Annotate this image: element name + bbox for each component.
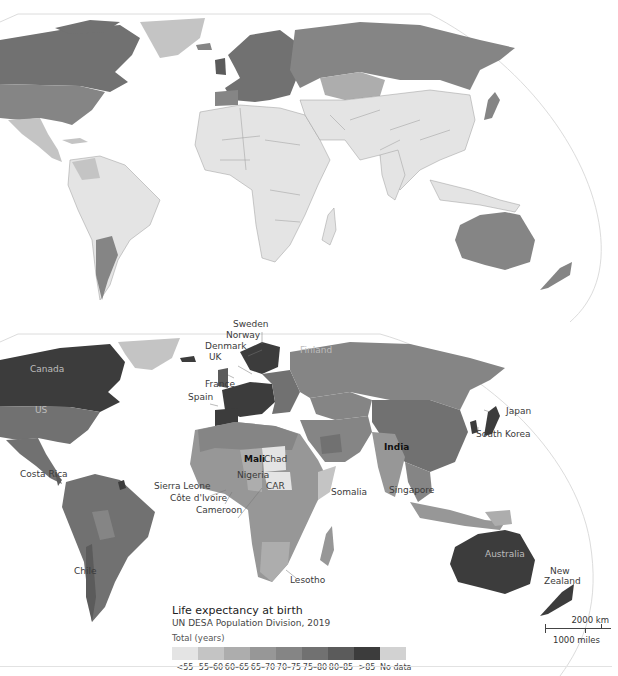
label-mali: Mali <box>244 455 265 464</box>
legend-source: UN DESA Population Division, 2019 <box>172 617 432 629</box>
legend-label: <55 <box>172 663 198 672</box>
label-cote-divoire: Côte d'Ivoire <box>170 494 227 503</box>
scale-miles-label: 1000 miles <box>553 635 600 645</box>
legend-swatches <box>172 647 432 660</box>
label-sierra-leone: Sierra Leone <box>154 482 211 491</box>
legend-title: Life expectancy at birth <box>172 604 432 617</box>
legend-swatch <box>198 647 224 660</box>
label-somalia: Somalia <box>331 488 367 497</box>
label-singapore: Singapore <box>389 486 434 495</box>
label-sweden: Sweden <box>233 320 269 329</box>
legend-label: 55–60 <box>198 663 224 672</box>
south-america-region <box>62 474 155 622</box>
label-nigeria: Nigeria <box>237 471 269 480</box>
legend-labels: <55 55–60 60–65 65–70 70–75 75–80 80–85 … <box>172 663 432 672</box>
label-chile: Chile <box>74 567 97 576</box>
label-finland: Finland <box>300 346 332 355</box>
label-new-zealand-2: Zealand <box>544 577 581 586</box>
map-legend: Life expectancy at birth UN DESA Populat… <box>172 604 432 672</box>
label-us: US <box>35 406 47 415</box>
legend-swatch <box>250 647 276 660</box>
legend-swatch <box>302 647 328 660</box>
legend-swatch <box>224 647 250 660</box>
scale-tick <box>601 624 602 629</box>
legend-label: 80–85 <box>328 663 354 672</box>
label-new-zealand-1: New <box>550 567 570 576</box>
greenland <box>140 18 205 58</box>
legend-swatch <box>380 647 406 660</box>
label-australia: Australia <box>485 550 525 559</box>
bottom-divider <box>0 666 612 667</box>
scale-tick <box>545 624 546 633</box>
usa-region <box>0 406 100 444</box>
legend-swatch <box>354 647 380 660</box>
label-canada: Canada <box>30 365 64 374</box>
label-costa-rica: Costa Rica <box>20 470 68 479</box>
label-denmark: Denmark <box>205 342 246 351</box>
canada-region <box>0 344 125 412</box>
label-car: CAR <box>266 482 285 491</box>
label-japan: Japan <box>506 407 531 416</box>
australia-region <box>455 212 535 270</box>
label-france: France <box>205 380 235 389</box>
legend-label: >85 <box>354 663 380 672</box>
scale-tick <box>585 628 586 633</box>
legend-label: 70–75 <box>276 663 302 672</box>
label-cameroon: Cameroon <box>196 506 242 515</box>
label-lesotho: Lesotho <box>290 576 325 585</box>
label-spain: Spain <box>188 393 213 402</box>
label-norway: Norway <box>226 331 260 340</box>
legend-label: 65–70 <box>250 663 276 672</box>
legend-swatch <box>276 647 302 660</box>
label-chad: Chad <box>264 455 287 464</box>
legend-label: 60–65 <box>224 663 250 672</box>
legend-swatch <box>328 647 354 660</box>
label-india: India <box>384 443 409 452</box>
australia-region <box>450 530 535 594</box>
scale-km-label: 2000 km <box>571 615 609 625</box>
legend-label: 75–80 <box>302 663 328 672</box>
label-south-korea: South Korea <box>476 430 531 439</box>
canada-region <box>0 25 140 92</box>
world-map-historical <box>0 0 618 322</box>
legend-unit: Total (years) <box>172 632 432 644</box>
legend-label: No data <box>380 663 406 672</box>
map-panel-historical <box>0 0 618 322</box>
label-uk: UK <box>209 353 222 362</box>
legend-swatch <box>172 647 198 660</box>
africa-region <box>195 105 330 262</box>
scale-bar: 2000 km 1000 miles <box>545 615 611 645</box>
usa-region <box>0 84 105 125</box>
